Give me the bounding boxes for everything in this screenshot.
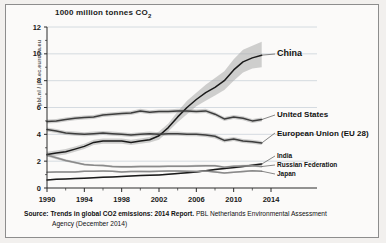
svg-text:1990: 1990 — [39, 195, 56, 204]
series-label-european-union: European Union (EU 28) — [277, 129, 369, 138]
label-leader-lines — [262, 54, 275, 174]
x-tick-labels: 1990199419982002200620102014 — [39, 195, 281, 204]
svg-text:2010: 2010 — [225, 195, 242, 204]
watermark-attribution: pbl.nl / jrc.ec.europa.eu — [36, 40, 42, 106]
svg-text:2002: 2002 — [151, 195, 168, 204]
series-label-russian-federation: Russian Federation — [277, 161, 337, 168]
svg-text:1994: 1994 — [76, 195, 94, 204]
source-publisher: PBL Netherlands Environmental Assessment — [196, 210, 327, 217]
series-label-china: China — [277, 48, 302, 58]
source-caption: Source: Trends in global CO2 emissions: … — [24, 209, 364, 228]
svg-text:1998: 1998 — [113, 195, 130, 204]
source-line2: Agency (December 2014) — [52, 219, 364, 229]
series-label-japan: Japan — [277, 170, 296, 177]
svg-text:0: 0 — [37, 184, 41, 193]
plot-area: 024681012 1990199419982002200620102014 — [0, 0, 386, 243]
series-label-united-states: United States — [277, 110, 328, 119]
svg-text:2014: 2014 — [263, 195, 281, 204]
source-label: Source: — [24, 210, 49, 217]
svg-text:2006: 2006 — [188, 195, 205, 204]
figure-container: 1000 million tonnes CO2 024681012 199019… — [0, 0, 386, 243]
chart-svg: 024681012 1990199419982002200620102014 — [0, 0, 386, 243]
series-label-india: India — [277, 152, 292, 159]
source-title: Trends in global CO2 emissions: 2014 Rep… — [50, 210, 194, 217]
svg-text:2: 2 — [37, 157, 41, 166]
svg-text:4: 4 — [37, 130, 42, 139]
svg-text:12: 12 — [33, 23, 41, 32]
